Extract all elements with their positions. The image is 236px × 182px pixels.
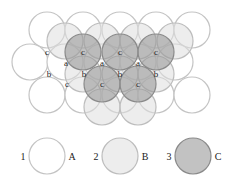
site-label-a: a <box>64 58 68 68</box>
sphere-packing-layers: ccccaaabbbbccc 1A2B3C <box>0 0 236 182</box>
legend-number: 2 <box>94 151 99 162</box>
layer-a-circle <box>12 44 48 80</box>
legend-circle-c <box>175 138 211 174</box>
legend-circle-b <box>102 138 138 174</box>
site-label-a: a <box>136 58 140 68</box>
site-label-c: c <box>81 47 85 57</box>
site-label-c: c <box>136 79 140 89</box>
legend-item-c: 3C <box>167 138 222 174</box>
site-label-c: c <box>100 79 104 89</box>
legend: 1A2B3C <box>21 138 222 174</box>
legend-number: 3 <box>167 151 172 162</box>
layer-a-circle <box>174 77 210 113</box>
site-label-a: a <box>100 58 104 68</box>
site-label-c: c <box>65 79 69 89</box>
layer-a-circle <box>29 77 65 113</box>
site-label-b: b <box>82 69 87 79</box>
legend-letter: B <box>142 151 149 162</box>
legend-number: 1 <box>21 151 26 162</box>
legend-item-a: 1A <box>21 138 77 174</box>
site-label-b: b <box>118 69 123 79</box>
legend-circle-a <box>29 138 65 174</box>
site-label-c: c <box>118 47 122 57</box>
site-label-c: c <box>45 47 49 57</box>
legend-letter: A <box>68 151 76 162</box>
legend-letter: C <box>215 151 222 162</box>
site-label-c: c <box>154 47 158 57</box>
legend-item-b: 2B <box>94 138 149 174</box>
site-label-b: b <box>47 69 52 79</box>
close-packing-diagram: ccccaaabbbbccc 1A2B3C <box>0 0 236 182</box>
site-label-b: b <box>154 69 159 79</box>
